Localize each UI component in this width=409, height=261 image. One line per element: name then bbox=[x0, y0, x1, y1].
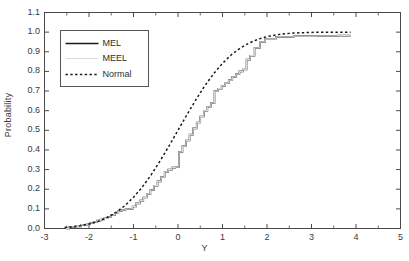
x-tick-label: 4 bbox=[341, 232, 371, 242]
legend-label-meel: MEEL bbox=[103, 53, 128, 63]
x-axis-title: Y bbox=[0, 243, 409, 253]
y-axis-title: Probability bbox=[3, 80, 13, 150]
legend-label-normal: Normal bbox=[103, 69, 132, 79]
x-tick-label: 5 bbox=[386, 232, 409, 242]
y-tick-label: 0.9 bbox=[8, 46, 40, 56]
y-tick-label: 0.8 bbox=[8, 65, 40, 75]
plot-canvas bbox=[0, 0, 409, 261]
x-tick-label: 2 bbox=[252, 232, 282, 242]
x-tick-label: 1 bbox=[208, 232, 238, 242]
cdf-probability-plot: 0.00.10.20.30.40.50.60.70.80.91.01.1 -3-… bbox=[0, 0, 409, 261]
y-tick-label: 1.0 bbox=[8, 26, 40, 36]
x-tick-label: -1 bbox=[119, 232, 149, 242]
y-tick-label: 1.1 bbox=[8, 7, 40, 17]
x-tick-label: 3 bbox=[297, 232, 327, 242]
x-tick-label: 0 bbox=[163, 232, 193, 242]
legend-label-mel: MEL bbox=[103, 38, 122, 48]
x-tick-label: -2 bbox=[74, 232, 104, 242]
y-tick-label: 0.3 bbox=[8, 164, 40, 174]
x-tick-label: -3 bbox=[30, 232, 60, 242]
y-tick-label: 0.1 bbox=[8, 203, 40, 213]
y-tick-label: 0.2 bbox=[8, 183, 40, 193]
